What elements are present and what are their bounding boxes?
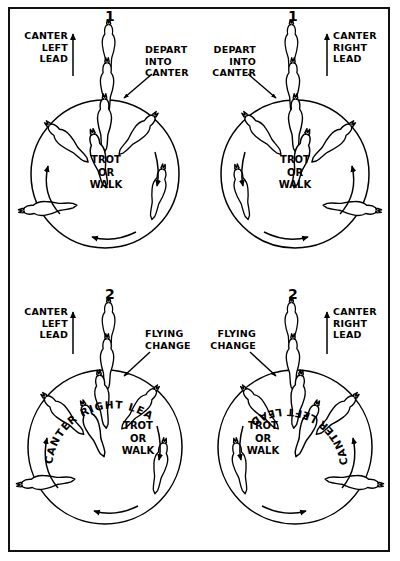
- panel-number-top-right: 1: [288, 8, 298, 24]
- panel-number-bottom-right: 2: [288, 286, 298, 302]
- panel-number-bottom-left: 2: [105, 286, 115, 302]
- lead-label-top-right: CANTER RIGHT LEAD: [333, 30, 395, 65]
- circle-label-top-right: TROT OR WALK: [264, 154, 326, 192]
- figure-canvas: CANTER RIGHT LEAD CANTER LEFT LEAD 1 CAN…: [0, 0, 400, 561]
- circle-label-top-left: TROT OR WALK: [75, 154, 137, 192]
- circle-label-bottom-left: TROT OR WALK: [108, 420, 168, 458]
- action-label-top-right: DEPART INTO CANTER: [194, 44, 256, 79]
- panel-number-top-left: 1: [105, 8, 115, 24]
- lead-label-bottom-right: CANTER RIGHT LEAD: [333, 306, 395, 341]
- arc-label-bottom-left: CANTER RIGHT LEAD: [0, 0, 156, 465]
- diagram-artwork: CANTER RIGHT LEAD CANTER LEFT LEAD: [0, 0, 400, 561]
- lead-label-bottom-left: CANTER LEFT LEAD: [6, 306, 68, 341]
- action-label-bottom-right: FLYING CHANGE: [194, 328, 256, 351]
- circle-label-bottom-right: TROT OR WALK: [233, 420, 293, 458]
- lead-label-top-left: CANTER LEFT LEAD: [6, 30, 68, 65]
